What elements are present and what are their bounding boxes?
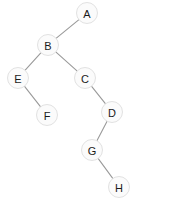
- graph-node-h[interactable]: H: [109, 177, 130, 198]
- graph-edge-b-e: [25, 52, 42, 70]
- graph-node-b[interactable]: B: [38, 35, 59, 56]
- graph-node-label-f: F: [44, 110, 51, 122]
- graph-node-label-b: B: [44, 40, 51, 52]
- tree-diagram-canvas: ABECFDGH: [0, 0, 175, 206]
- graph-node-label-h: H: [115, 182, 123, 194]
- graph-node-label-e: E: [14, 73, 21, 85]
- graph-edge-g-h: [98, 158, 113, 179]
- graph-node-label-d: D: [108, 107, 116, 119]
- graph-node-c[interactable]: C: [75, 68, 96, 89]
- graph-node-label-c: C: [81, 73, 89, 85]
- graph-edge-b-c: [55, 52, 77, 72]
- graph-edge-e-f: [24, 86, 41, 107]
- node-layer: ABECFDGH: [8, 3, 130, 198]
- graph-edge-c-d: [91, 86, 106, 104]
- tree-diagram-svg: ABECFDGH: [0, 0, 175, 206]
- graph-node-e[interactable]: E: [8, 68, 29, 89]
- graph-node-label-g: G: [88, 145, 97, 157]
- graph-node-label-a: A: [83, 8, 91, 20]
- graph-node-g[interactable]: G: [82, 140, 103, 161]
- graph-edge-a-b: [56, 19, 80, 38]
- graph-node-f[interactable]: F: [37, 105, 58, 126]
- graph-edge-d-g: [97, 121, 108, 141]
- graph-node-a[interactable]: A: [77, 3, 98, 24]
- graph-node-d[interactable]: D: [102, 102, 123, 123]
